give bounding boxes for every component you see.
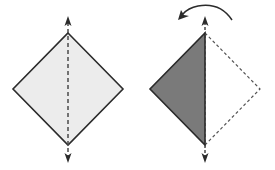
step-2-ghost-right-half [205,33,260,145]
step-1-diamond-group [13,16,123,163]
step-2-curved-arrowhead-icon [178,10,189,20]
step-2-curved-fold-arrow-icon [183,5,232,20]
fold-diagram [0,0,275,170]
step-2-folded-left-half [150,33,205,145]
step-1-down-arrow-icon [65,153,72,163]
step-2-down-arrow-icon [202,153,209,163]
step-2-folded-group [150,5,260,163]
